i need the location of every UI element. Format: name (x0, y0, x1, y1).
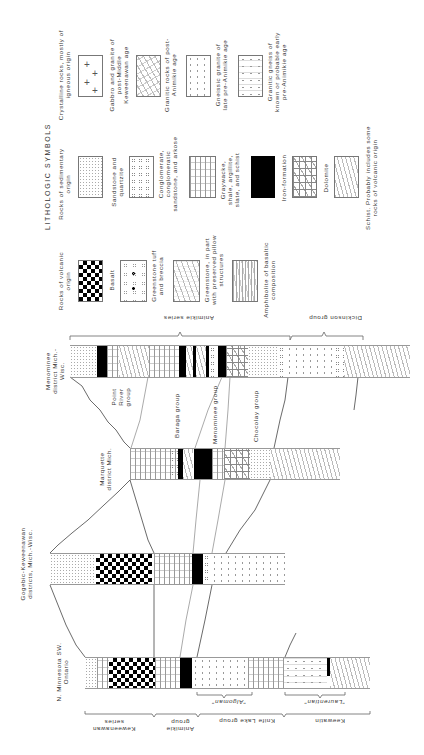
group-label-chocolay: Chocolay group (252, 390, 259, 442)
column-label-menominee: Menominee district Mich.-Wisc. (44, 340, 65, 402)
bracket-label-animikie-group: Animikie group (164, 719, 196, 733)
column-label-minnesota: N. Minnesota SW. Ontario (55, 642, 69, 702)
group-label-menominee: Menominee group (211, 385, 218, 444)
bracket-label-laurentian: "Laurentian" (304, 699, 345, 706)
bracket-label-knife-lake-group: Knife Lake group (219, 718, 275, 725)
column-label-marquette: Marquette district Mich. (98, 444, 112, 494)
group-label-point-river: Point River group (110, 382, 131, 412)
bracket-label-dickinson-group: Dickinson group (309, 315, 362, 322)
group-label-baraga: Baraga group (173, 393, 180, 438)
column-marquette (130, 448, 340, 480)
column-label-gogebic: Gogebic-Keweenawan districts, Mich.-Wisc… (19, 516, 33, 612)
bracket-label-keewatin: Keewatin (315, 718, 345, 725)
column-gogebic (50, 553, 285, 585)
bracket-label-animikie-series: Animikie series (163, 315, 214, 322)
column-minnesota (85, 657, 370, 689)
column-menominee (70, 345, 410, 378)
bracket-label-keweenawan-series: Keweenawan series (84, 719, 144, 733)
bracket-label-algoman: "Algoman" (212, 699, 246, 706)
